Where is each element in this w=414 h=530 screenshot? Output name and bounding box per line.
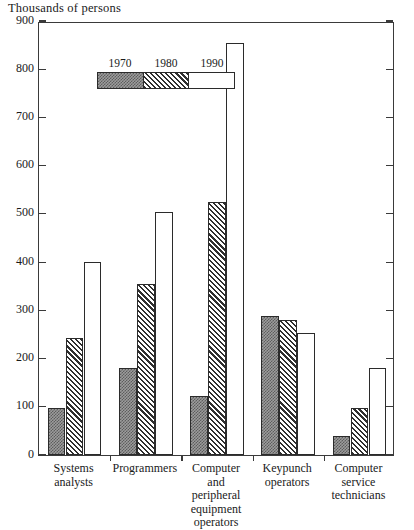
- x-axis-group-tick: [181, 455, 182, 461]
- bar-1990: [226, 43, 244, 455]
- y-tick-label: 900: [16, 13, 34, 28]
- legend-label-1970: 1970: [97, 57, 143, 69]
- y-tick-label: 300: [16, 302, 34, 317]
- legend-swatch-1990: [189, 73, 234, 88]
- bar-group: [324, 23, 395, 455]
- x-axis-group-tick: [324, 455, 325, 461]
- x-axis-category-label: Computer service technicians: [319, 462, 398, 503]
- bar-1970: [333, 436, 351, 455]
- plot-area: 0100200300400500600700800900 19701980199…: [38, 22, 394, 456]
- bar-1980: [208, 202, 226, 455]
- y-tick-mark-left: [39, 20, 46, 21]
- x-axis-group-tick: [253, 455, 254, 461]
- legend-label-1990: 1990: [189, 57, 235, 69]
- bar-group: [253, 23, 324, 455]
- legend-label-1980: 1980: [143, 57, 189, 69]
- legend-swatches: [97, 72, 235, 89]
- bar-1970: [190, 396, 208, 455]
- bar-1990: [369, 368, 387, 455]
- x-axis-category-label: Computer and peripheral equipment operat…: [176, 462, 255, 530]
- x-axis-category-label: Programmers: [105, 462, 184, 476]
- bar-1980: [279, 320, 297, 456]
- bar-1970: [261, 316, 279, 455]
- y-tick-label: 700: [16, 109, 34, 124]
- chart-legend: 197019801990: [97, 57, 235, 89]
- x-axis-category-label: Systems analysts: [34, 462, 113, 489]
- bar-1980: [137, 284, 155, 455]
- y-tick-label: 500: [16, 205, 34, 220]
- x-axis-category-label: Keypunch operators: [248, 462, 327, 489]
- y-tick-label: 600: [16, 157, 34, 172]
- y-tick-label: 800: [16, 61, 34, 76]
- bar-1990: [84, 262, 102, 455]
- legend-labels: 197019801990: [97, 57, 235, 72]
- bar-1990: [297, 333, 315, 455]
- bar-1980: [66, 338, 84, 455]
- bar-1970: [48, 408, 66, 455]
- y-tick-label: 0: [28, 447, 34, 462]
- legend-swatch-1970: [98, 73, 144, 88]
- y-tick-label: 400: [16, 254, 34, 269]
- y-tick-label: 200: [16, 350, 34, 365]
- bar-1970: [119, 368, 137, 455]
- bar-1990: [155, 212, 173, 455]
- y-tick-mark-right: [386, 20, 393, 21]
- bar-1980: [351, 408, 369, 455]
- y-tick-label: 100: [16, 398, 34, 413]
- x-axis-group-tick: [110, 455, 111, 461]
- legend-swatch-1980: [144, 73, 190, 88]
